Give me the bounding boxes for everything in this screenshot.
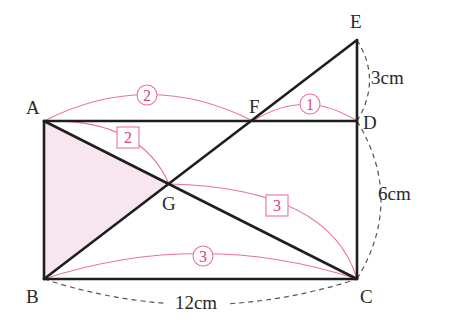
svg-text:3: 3 [273,197,281,214]
ratio-box-ag: 2 [117,127,139,148]
point-label-a: A [26,97,40,118]
dimension-label-bc: 12cm [175,292,217,313]
shaded-triangle-abg [44,121,169,279]
point-label-c: C [360,286,373,307]
dimension-label-ed: 3cm [371,67,404,88]
ratio-box-gc: 3 [266,195,288,216]
point-label-g: G [162,193,176,214]
point-label-e: E [350,11,362,32]
ratio-badge-bc: 3 [193,246,213,266]
geometry-diagram: 2 1 3 2 3 3cm 6cm 12cm A B C D E F G [0,0,457,333]
ratio-badge-af: 2 [137,85,157,105]
svg-text:2: 2 [143,87,151,104]
dimension-label-dc: 6cm [378,183,411,204]
svg-text:2: 2 [124,129,132,146]
point-label-f: F [249,96,260,117]
point-label-b: B [26,286,39,307]
svg-text:1: 1 [306,96,314,113]
dimension-arc-ed [357,40,370,121]
point-label-d: D [363,112,377,133]
ratio-badge-fd: 1 [300,94,320,114]
svg-text:3: 3 [199,248,207,265]
